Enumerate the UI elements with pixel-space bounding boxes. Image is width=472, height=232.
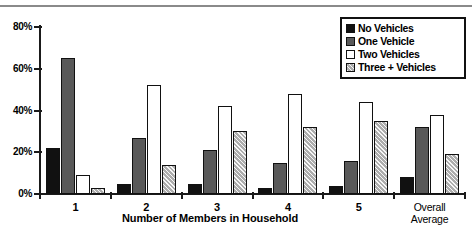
light-gray-hatched-swatch-icon: [346, 63, 355, 72]
black-swatch-icon: [346, 24, 355, 33]
bar: [188, 184, 202, 194]
legend-item-label: One Vehicle: [358, 36, 414, 47]
bar: [258, 188, 272, 194]
bar-group: [46, 27, 105, 194]
legend-item-label: Three + Vehicles: [358, 62, 436, 73]
bar: [400, 177, 414, 194]
bar: [132, 138, 146, 194]
y-axis-tick-label: 60%: [0, 64, 32, 74]
bar: [415, 127, 429, 194]
bar: [329, 186, 343, 194]
bar-group: [188, 27, 247, 194]
bar: [46, 148, 60, 194]
bar-group: [258, 27, 317, 194]
bar: [203, 150, 217, 194]
bar: [273, 163, 287, 194]
bar: [76, 175, 90, 194]
legend-item-label: Two Vehicles: [358, 49, 420, 60]
top-divider-rule: [0, 5, 472, 7]
bar: [344, 161, 358, 194]
x-axis-title: Number of Members in Household: [40, 212, 380, 224]
bar-group: [117, 27, 176, 194]
bar: [147, 85, 161, 194]
bar: [162, 165, 176, 194]
dark-gray-swatch-icon: [346, 37, 355, 46]
bar: [91, 188, 105, 194]
x-axis-category-label: OverallAverage: [394, 201, 465, 225]
bar: [61, 58, 75, 194]
legend-item: Three + Vehicles: [346, 61, 460, 73]
bar: [288, 94, 302, 194]
bar-chart-figure: 80%60%40%20%0% 12345OverallAverage Numbe…: [0, 0, 472, 232]
legend-item: One Vehicle: [346, 35, 460, 47]
bar: [218, 106, 232, 194]
chart-legend: No VehiclesOne VehicleTwo VehiclesThree …: [340, 17, 466, 79]
legend-item: No Vehicles: [346, 22, 460, 34]
legend-item-label: No Vehicles: [358, 23, 414, 34]
bar: [430, 115, 444, 194]
bar: [359, 102, 373, 194]
y-axis-tick-label: 0%: [0, 189, 32, 199]
bar: [445, 154, 459, 194]
bar: [233, 131, 247, 194]
white-swatch-icon: [346, 50, 355, 59]
y-axis-tick-label: 80%: [0, 22, 32, 32]
bar: [303, 127, 317, 194]
y-axis-tick-label: 20%: [0, 147, 32, 157]
y-axis-tick-label: 40%: [0, 106, 32, 116]
bar: [374, 121, 388, 194]
legend-item: Two Vehicles: [346, 48, 460, 60]
bar: [117, 184, 131, 194]
